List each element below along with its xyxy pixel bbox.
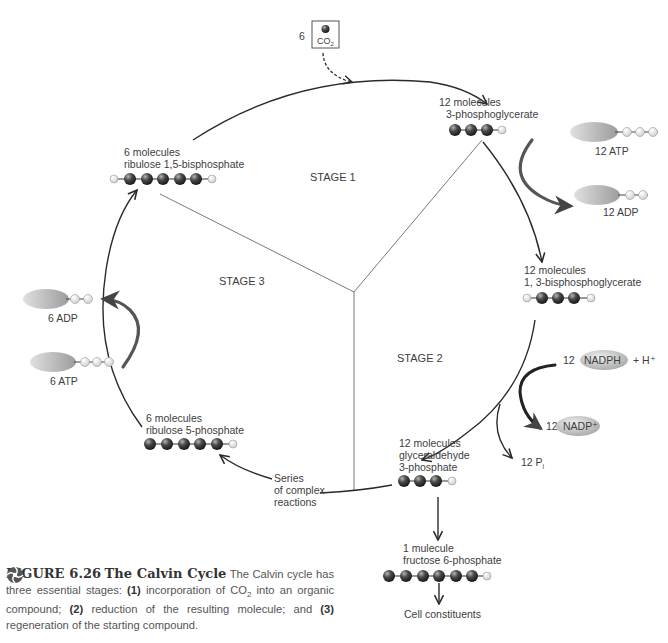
series-of-reactions-label: Series of complex reactions — [274, 472, 326, 508]
svg-text:1 mulecule: 1 mulecule — [403, 542, 454, 554]
carbon-chain-3c2p — [523, 292, 595, 304]
molecule-ribulose-1-5-bisphosphate: 6 molecules ribulose 1,5-bisphosphate — [110, 146, 244, 185]
svg-text:12 molecules: 12 molecules — [439, 96, 501, 108]
svg-text:12 molecules: 12 molecules — [524, 264, 586, 276]
svg-text:1, 3-bisphosphoglycerate: 1, 3-bisphosphoglycerate — [524, 276, 641, 288]
svg-text:NADP⁺: NADP⁺ — [563, 420, 598, 432]
svg-text:12 ATP: 12 ATP — [595, 145, 629, 157]
svg-text:of complex: of complex — [274, 484, 326, 496]
arrow-series-to-r5p — [220, 455, 272, 479]
carbon-chain-5c1p — [144, 438, 237, 450]
stage-2-label: STAGE 2 — [397, 352, 443, 364]
svg-text:NADPH: NADPH — [584, 354, 621, 366]
carbon-chain-3c1p — [449, 124, 506, 136]
co2-input-arrow — [323, 53, 352, 82]
svg-text:12 ADP: 12 ADP — [603, 206, 639, 218]
molecule-ribulose-5-phosphate: 6 molecules ribulose 5-phosphate — [144, 412, 244, 450]
arrow-rubp-to-pga — [193, 80, 487, 140]
svg-text:6 ATP: 6 ATP — [50, 375, 78, 387]
adp-6: 6 ADP — [23, 289, 93, 324]
molecule-3-phosphoglycerate: 12 molecules 3-phosphoglycerate — [439, 96, 538, 136]
svg-text:6 molecules: 6 molecules — [146, 412, 202, 424]
svg-text:ribulose 5-phosphate: ribulose 5-phosphate — [146, 424, 244, 436]
carbon-chain-3c1p — [398, 475, 456, 487]
arrow-to-pi — [497, 404, 512, 458]
svg-text:6 ADP: 6 ADP — [48, 312, 78, 324]
atp-6: 6 ATP — [30, 352, 114, 387]
svg-text:glyceraldehyde: glyceraldehyde — [399, 449, 470, 461]
svg-text:12 molecules: 12 molecules — [399, 437, 461, 449]
carbon-chain-6c1p — [383, 570, 491, 582]
molecule-fructose-6-phosphate: 1 mulecule fructose 6-phosphate — [383, 542, 502, 582]
svg-text:reactions: reactions — [274, 496, 317, 508]
swirl-logo-icon — [6, 566, 24, 584]
calvin-cycle-diagram: 6 CO2 STAGE 1 STAGE 2 STAGE 3 12 molecul… — [0, 0, 668, 643]
phosphate-released-label: 12 Pi — [521, 456, 545, 470]
cell-constituents-label: Cell constituents — [404, 608, 481, 620]
svg-text:6 molecules: 6 molecules — [124, 146, 180, 158]
figure-caption: FIGURE 6.26 The Calvin Cycle The Calvin … — [6, 566, 334, 633]
arrow-g3p-to-series — [320, 485, 392, 493]
svg-text:3-phosphoglycerate: 3-phosphoglycerate — [446, 108, 538, 120]
svg-text:fructose 6-phosphate: fructose 6-phosphate — [403, 554, 502, 566]
carbon-chain-5c2p — [110, 173, 216, 185]
svg-text:+ H⁺: + H⁺ — [633, 354, 656, 366]
atp-to-adp-arrow-stage2 — [520, 140, 570, 206]
molecule-1-3-bisphosphoglycerate: 12 molecules 1, 3-bisphosphoglycerate — [523, 264, 641, 304]
adp-12: 12 ADP — [574, 185, 648, 218]
figure-title: The Calvin Cycle — [105, 566, 227, 581]
svg-text:ribulose 1,5-bisphosphate: ribulose 1,5-bisphosphate — [124, 158, 244, 170]
atp-12: 12 ATP — [570, 122, 658, 157]
arrow-r5p-to-rubp — [103, 190, 142, 427]
nadph-to-nadp-arrow — [520, 365, 555, 428]
stage-3-label: STAGE 3 — [219, 275, 265, 287]
svg-text:3-phosphate: 3-phosphate — [399, 461, 458, 473]
svg-text:6: 6 — [299, 30, 305, 42]
svg-text:12: 12 — [563, 354, 575, 366]
nadp-plus: 12 NADP⁺ — [546, 416, 600, 436]
arrow-pga-to-bpg — [483, 142, 542, 262]
nadph: 12 NADPH + H⁺ — [563, 350, 656, 370]
stage-1-label: STAGE 1 — [310, 171, 356, 183]
molecule-glyceraldehyde-3-phosphate: 12 molecules glyceraldehyde 3-phosphate — [398, 437, 470, 487]
svg-text:Series: Series — [274, 472, 304, 484]
co2-box: 6 CO2 — [299, 21, 339, 48]
